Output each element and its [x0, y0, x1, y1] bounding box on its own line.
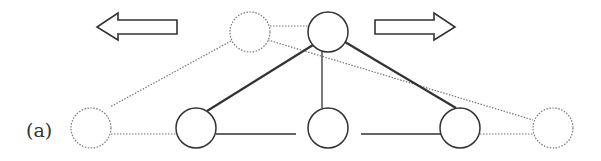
node-bottom-left: [176, 108, 216, 148]
node-bottom-right: [440, 108, 480, 148]
node-top: [308, 12, 348, 52]
node-bottom-mid: [308, 108, 348, 148]
graph-diagram: [0, 0, 601, 161]
node-top-ghost: [230, 12, 270, 52]
node-bottom-ghost-right: [533, 108, 573, 148]
node-bottom-ghost-left: [71, 108, 111, 148]
right-arrow-icon: [375, 13, 455, 40]
panel-label: (a): [26, 119, 52, 141]
edge-top-bottomleft: [207, 45, 313, 111]
edge-topghost-ghostright: [268, 40, 533, 120]
left-arrow-icon: [97, 13, 177, 40]
edge-top-bottomright: [345, 42, 456, 108]
edge-topghost-ghostleft: [110, 41, 231, 107]
